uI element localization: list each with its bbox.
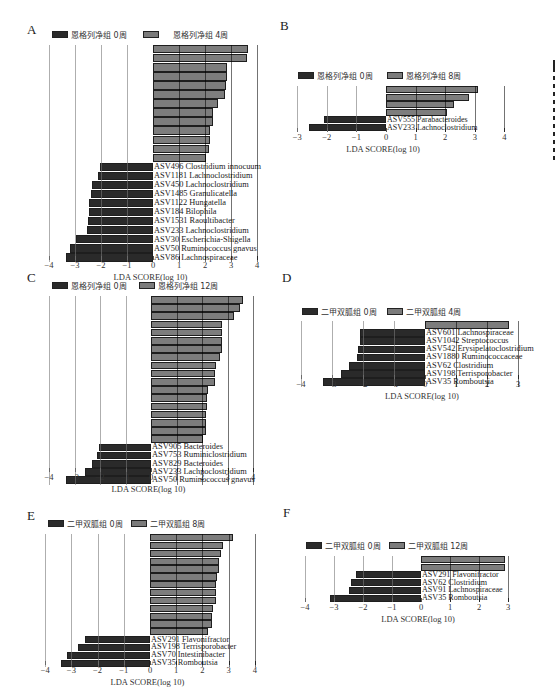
lda-bar	[98, 172, 153, 180]
gridline	[124, 534, 125, 667]
gridline	[45, 534, 46, 667]
lda-bar	[87, 226, 153, 234]
gridline	[257, 45, 258, 262]
lda-bar	[153, 136, 210, 144]
lda-bar	[386, 101, 454, 108]
axis-tick-label: 0	[419, 602, 423, 612]
axis-tick-label: −2	[358, 602, 367, 612]
edge-dash	[553, 156, 555, 160]
bar-label: ASV35 Romboutsia	[426, 378, 494, 386]
gridline	[479, 556, 480, 602]
lda-bar	[151, 312, 234, 320]
lda-bar	[151, 353, 220, 361]
edge-dash	[553, 84, 555, 88]
lda-bar	[151, 321, 222, 329]
x-axis-title: LDA SCORE(log 10)	[111, 677, 185, 687]
axis-tick-label: 3	[506, 602, 510, 612]
legend-label-light: 恩格列净组 8周	[406, 70, 462, 81]
lda-bar	[150, 581, 216, 588]
legend-swatch-dark	[302, 308, 318, 315]
axis-tick-label: −4	[300, 602, 309, 612]
lda-bar	[153, 72, 227, 80]
lda-bar	[151, 394, 207, 402]
legend-swatch-light	[389, 542, 405, 549]
lda-bar	[153, 81, 226, 89]
gridline	[228, 296, 229, 485]
bar-label: ASV184 Bilophila	[154, 207, 217, 216]
gridline	[416, 86, 417, 132]
gridline	[487, 321, 488, 387]
x-axis-title: LDA SCORE(log 10)	[346, 144, 420, 154]
legend-swatch-dark	[298, 72, 314, 79]
lda-bar	[358, 346, 425, 354]
lda-bar	[151, 329, 222, 337]
gridline	[363, 556, 364, 602]
edge-dash	[553, 132, 555, 136]
legend-label-dark: 二甲双胍组 0周	[67, 518, 123, 529]
gridline	[179, 45, 180, 262]
axis-tick-label: 0	[149, 472, 153, 482]
lda-bar	[151, 411, 206, 419]
edge-dash	[553, 76, 555, 80]
gridline	[255, 534, 256, 667]
lda-bar	[421, 556, 505, 563]
gridline	[392, 556, 393, 602]
gridline	[253, 296, 254, 485]
x-axis-title: LDA SCORE(log 10)	[381, 614, 455, 624]
bar-label: ASV1122 Hungatella	[154, 198, 226, 207]
lda-bar	[150, 573, 217, 580]
x-axis-title: LDA SCORE(log 10)	[114, 272, 188, 282]
gridline	[100, 296, 101, 485]
lda-bar	[150, 558, 219, 565]
lda-bar	[89, 199, 153, 207]
lda-bar	[153, 45, 248, 53]
lda-bar	[151, 419, 206, 427]
legend-swatch-dark	[52, 31, 68, 38]
gridline	[508, 556, 509, 602]
gridline	[327, 86, 328, 132]
gridline	[126, 296, 127, 485]
bar-label: ASV86 Lachnospiraceae	[154, 253, 237, 262]
legend-swatch-light	[131, 520, 147, 527]
gridline	[445, 86, 446, 132]
panel-c-letter: C	[27, 270, 36, 286]
legend-label-dark: 二甲双胍组 0周	[325, 540, 381, 551]
axis-tick-label: −3	[329, 602, 338, 612]
lda-bar	[386, 94, 469, 101]
axis-tick-label: 1	[448, 602, 452, 612]
legend-label-light: 恩格列净组 4周	[173, 29, 229, 40]
axis-tick-label: 1	[413, 132, 417, 142]
edge-dash	[553, 140, 555, 144]
legend-label-light: 二甲双胍组 4周	[406, 306, 462, 317]
lda-bar	[330, 595, 421, 602]
bar-label: ASV233 Lachnoclostridium	[387, 124, 477, 132]
gridline	[98, 534, 99, 667]
lda-bar	[151, 337, 222, 345]
page-edge-marker	[553, 60, 555, 72]
lda-bar	[153, 145, 209, 153]
bar-label: ASV1181 Lachnoclostridium	[154, 171, 253, 180]
lda-bar	[349, 362, 425, 370]
legend-label-light: 二甲双胍组 8周	[150, 518, 206, 529]
gridline	[231, 45, 232, 262]
axis-tick-label: 4	[502, 132, 506, 142]
x-axis-title: LDA SCORE(log 10)	[385, 391, 459, 401]
gridline	[394, 321, 395, 387]
gridline	[205, 45, 206, 262]
lda-bar	[356, 571, 421, 578]
axis-tick-label: −1	[352, 132, 361, 142]
gridline	[75, 296, 76, 485]
legend-swatch-light	[143, 31, 159, 38]
legend-label-dark: 二甲双胍组 0周	[321, 306, 377, 317]
legend-label-light: 二甲双胍组 12周	[408, 540, 469, 551]
lda-bar	[349, 587, 422, 594]
legend-swatch-light	[139, 282, 155, 289]
lda-bar	[357, 354, 425, 362]
gridline	[101, 45, 102, 262]
lda-bar	[150, 589, 216, 596]
axis-tick-label: 0	[151, 260, 155, 270]
lda-bar	[151, 370, 215, 378]
gridline	[475, 86, 476, 132]
gridline	[176, 534, 177, 667]
lda-bar	[151, 378, 215, 386]
